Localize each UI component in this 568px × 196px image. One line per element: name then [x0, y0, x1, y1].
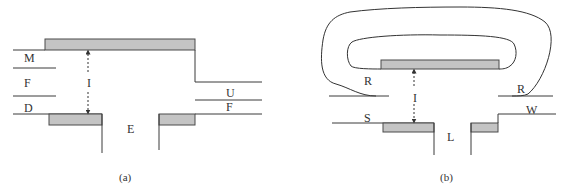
bottom-left-plate: [383, 123, 434, 132]
caption-b: (b): [440, 171, 453, 184]
label-s: S: [364, 111, 371, 125]
label-f-left: F: [24, 76, 31, 90]
panel-a: M F I D E U F (a): [13, 39, 262, 184]
label-l: L: [447, 130, 454, 144]
label-e: E: [127, 122, 134, 136]
top-plate: [45, 39, 195, 50]
label-r-right: R: [517, 82, 525, 96]
label-w: W: [526, 103, 538, 117]
caption-a: (a): [119, 171, 132, 184]
label-i: I: [413, 91, 417, 105]
label-f-right: F: [226, 100, 233, 114]
panel-b: R R I S L W (b): [321, 7, 556, 184]
figure: M F I D E U F (a) R R I: [0, 0, 568, 196]
label-d: D: [24, 101, 33, 115]
label-u: U: [226, 86, 235, 100]
bottom-right-plate: [159, 114, 195, 125]
label-i: I: [87, 76, 91, 90]
bottom-left-plate: [49, 114, 102, 125]
label-r-left: R: [364, 74, 372, 88]
label-m: M: [24, 51, 35, 65]
top-plate: [381, 60, 499, 69]
bottom-right-plate: [471, 123, 498, 132]
